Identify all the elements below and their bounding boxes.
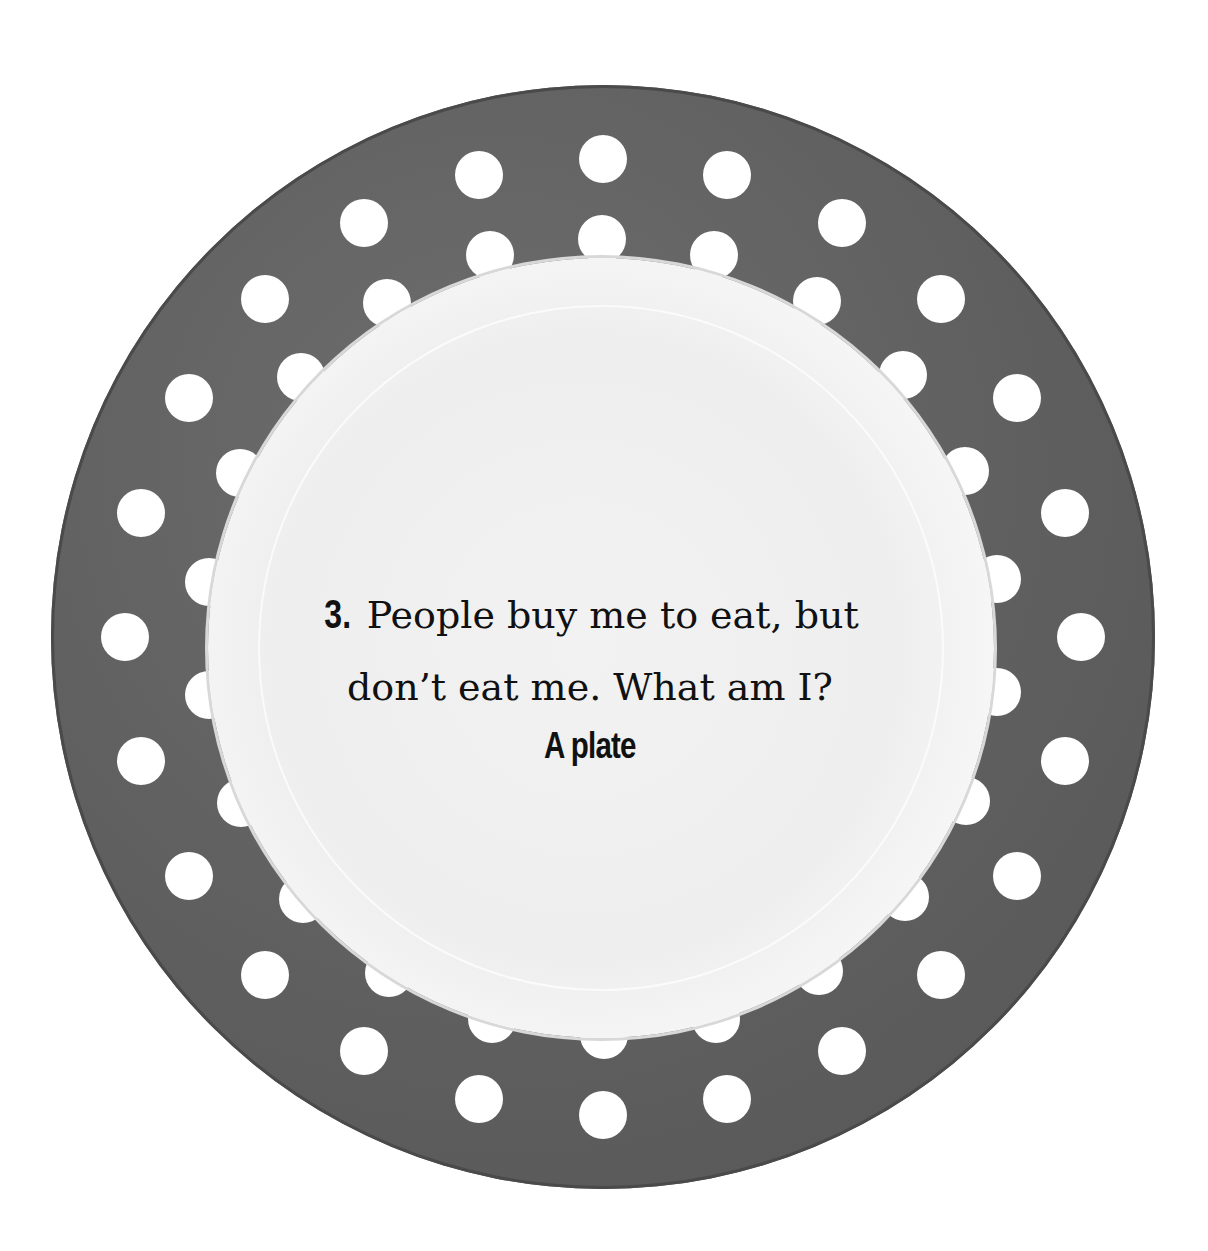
polka-dot bbox=[340, 199, 388, 247]
polka-dot bbox=[101, 613, 149, 661]
polka-dot bbox=[917, 275, 965, 323]
polka-dot bbox=[993, 852, 1041, 900]
polka-dot bbox=[241, 951, 289, 999]
polka-dot bbox=[579, 135, 627, 183]
polka-dot bbox=[455, 1075, 503, 1123]
polka-dot bbox=[165, 852, 213, 900]
polka-dot bbox=[703, 1075, 751, 1123]
polka-dot bbox=[579, 1091, 627, 1139]
polka-dot bbox=[1057, 613, 1105, 661]
polka-dot bbox=[578, 215, 626, 263]
polka-dot bbox=[117, 737, 165, 785]
riddle-line-2: don’t eat me. What am I? bbox=[290, 651, 890, 723]
riddle-question-part-1: People buy me to eat, but bbox=[367, 593, 859, 637]
polka-dot bbox=[818, 199, 866, 247]
riddle-line-1: 3. People buy me to eat, but bbox=[290, 578, 890, 651]
riddle-answer: A plate bbox=[544, 725, 636, 767]
polka-dot bbox=[703, 151, 751, 199]
polka-dot bbox=[241, 275, 289, 323]
polka-dot bbox=[917, 951, 965, 999]
polka-dot bbox=[165, 374, 213, 422]
polka-dot bbox=[993, 374, 1041, 422]
polka-dot bbox=[1041, 489, 1089, 537]
polka-dot bbox=[818, 1027, 866, 1075]
riddle-text: 3. People buy me to eat, but don’t eat m… bbox=[290, 578, 890, 767]
riddle-number: 3. bbox=[325, 578, 352, 650]
polka-dot bbox=[340, 1027, 388, 1075]
polka-dot bbox=[1041, 737, 1089, 785]
